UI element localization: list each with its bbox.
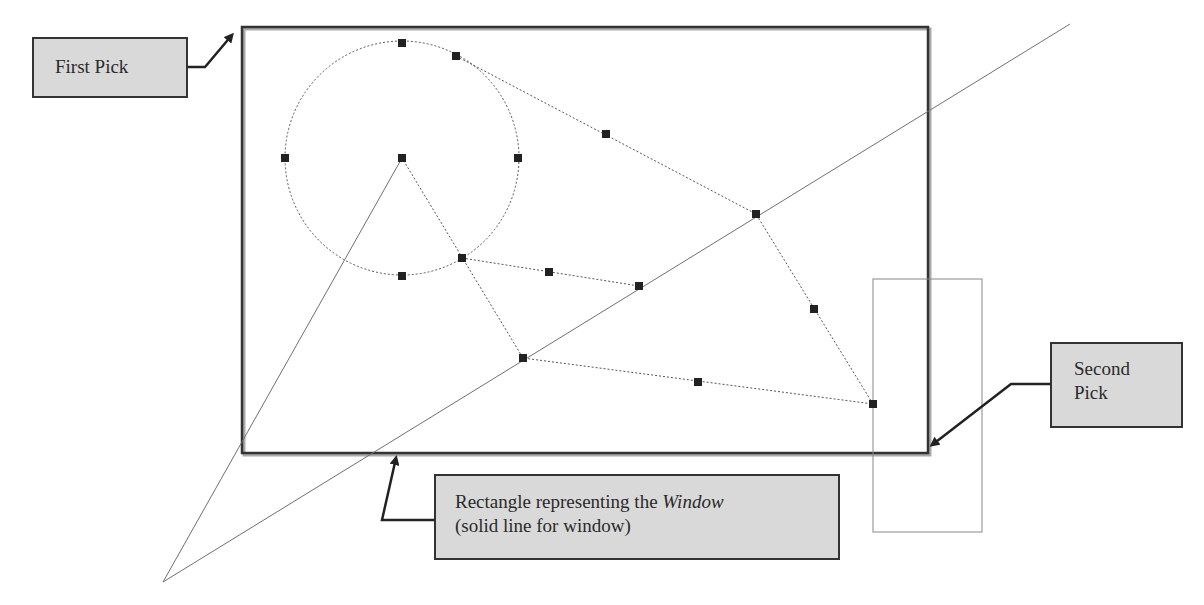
second-pick-arrow: [932, 384, 1050, 445]
grip: [519, 354, 527, 362]
first-pick-arrow: [187, 35, 232, 67]
grip: [694, 378, 702, 386]
window-rectangle-shadow: [244, 29, 930, 455]
second-pick-label-line2: Pick: [1074, 381, 1181, 405]
window-label-prefix: Rectangle representing the: [455, 491, 662, 512]
grip: [514, 154, 522, 162]
short-line: [163, 158, 402, 582]
grip: [810, 305, 818, 313]
grip: [398, 272, 406, 280]
window-label-line2: (solid line for window): [455, 514, 838, 538]
grip: [545, 268, 553, 276]
grip: [458, 254, 466, 262]
grip: [635, 282, 643, 290]
second-pick-label-line1: Second: [1074, 357, 1181, 381]
dashed-polyline-main: [402, 56, 873, 404]
grip: [281, 154, 289, 162]
second-pick-callout: Second Pick: [1050, 342, 1183, 428]
grip: [752, 210, 760, 218]
window-label-arrow: [382, 458, 434, 520]
first-pick-label: First Pick: [55, 55, 186, 79]
grip-points: [281, 39, 877, 408]
grip: [398, 154, 406, 162]
window-label-line1: Rectangle representing the Window: [455, 490, 838, 514]
window-label-callout: Rectangle representing the Window (solid…: [434, 474, 840, 560]
window-rectangle: [242, 27, 928, 453]
grip: [398, 39, 406, 47]
grip: [869, 400, 877, 408]
first-pick-callout: First Pick: [32, 37, 188, 98]
grip: [602, 130, 610, 138]
window-label-italic: Window: [662, 491, 723, 512]
grip: [452, 52, 460, 60]
